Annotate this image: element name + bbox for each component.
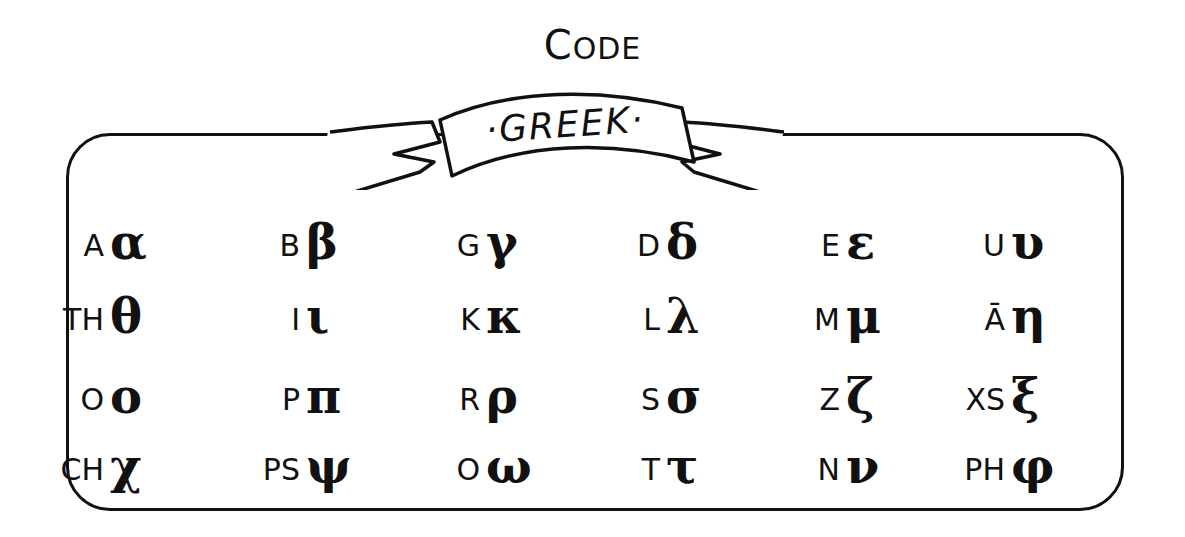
latin-letter: N [780,452,840,487]
greek-letter: γ [486,214,518,270]
greek-letter: ζ [846,368,874,424]
greek-letter: ι [306,288,329,344]
greek-letter: κ [486,288,522,344]
latin-letter: TH [44,302,104,337]
latin-letter: O [420,452,480,487]
page-title: CODE [0,22,1185,68]
title-rest: ODE [573,31,642,66]
latin-letter: T [600,452,660,487]
latin-letter: E [780,228,840,263]
greek-letter: ν [846,438,879,494]
greek-letter: ω [486,438,532,494]
latin-letter: PH [945,452,1005,487]
latin-letter: XS [945,382,1005,417]
latin-letter: K [420,302,480,337]
greek-letter: χ [110,438,142,494]
greek-letter: λ [666,288,700,344]
greek-letter: ε [846,214,875,270]
greek-letter: σ [666,368,701,424]
greek-letter: ρ [486,368,518,424]
latin-letter: A [44,228,104,263]
greek-letter: τ [666,438,698,494]
latin-letter: O [44,382,104,417]
latin-letter: U [945,228,1005,263]
latin-letter: PS [240,452,300,487]
latin-letter: P [240,382,300,417]
greek-letter: α [110,214,147,270]
latin-letter: Z [780,382,840,417]
latin-letter: S [600,382,660,417]
latin-letter: B [240,228,300,263]
greek-letter: θ [110,288,142,344]
latin-letter: L [600,302,660,337]
latin-letter: R [420,382,480,417]
greek-letter: δ [666,214,698,270]
greek-letter: υ [1011,214,1044,270]
latin-letter: CH [44,452,104,487]
latin-letter: G [420,228,480,263]
latin-letter: M [780,302,840,337]
greek-letter: ξ [1011,368,1039,424]
latin-letter: I [240,302,300,337]
greek-letter: ο [110,368,142,424]
greek-letter: μ [846,288,881,344]
greek-letter: η [1011,288,1046,344]
title-first-letter: C [544,22,573,68]
greek-letter: ψ [306,438,351,494]
latin-letter: Ā [945,302,1005,337]
greek-letter: φ [1011,438,1054,494]
greek-letter: π [306,368,341,424]
greek-letter: β [306,214,338,270]
latin-letter: D [600,228,660,263]
